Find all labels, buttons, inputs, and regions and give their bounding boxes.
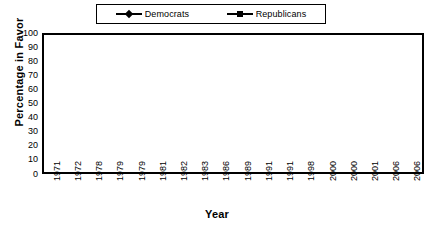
x-axis-tick: 2000	[329, 161, 338, 191]
plot-area	[42, 33, 424, 174]
x-axis-tick: 1991	[265, 161, 274, 191]
y-axis-tick: 80	[14, 57, 38, 66]
legend-entry-democrats: Democrats	[116, 10, 189, 19]
x-axis-tick: 1979	[116, 161, 125, 191]
x-axis-tick: 1978	[95, 161, 104, 191]
x-axis-tick: 1986	[222, 161, 231, 191]
legend-entry-republicans: Republicans	[227, 10, 307, 19]
y-axis-tick: 30	[14, 127, 38, 136]
y-axis-tick: 90	[14, 43, 38, 52]
x-axis-tick: 2006	[413, 161, 422, 191]
y-axis-tick: 10	[14, 155, 38, 164]
legend-label-democrats: Democrats	[145, 10, 189, 19]
x-axis-tick: 1971	[53, 161, 62, 191]
chart-legend: Democrats Republicans	[96, 4, 326, 24]
x-axis-tick: 1983	[201, 161, 210, 191]
y-axis-tick: 20	[14, 141, 38, 150]
plot-frame-border	[42, 33, 424, 174]
x-axis-tick: 1979	[138, 161, 147, 191]
x-axis-tick: 1998	[307, 161, 316, 191]
y-axis-tick: 50	[14, 99, 38, 108]
x-axis-tick: 2001	[371, 161, 380, 191]
y-axis-tick: 100	[14, 29, 38, 38]
x-axis-tick: 1989	[244, 161, 253, 191]
y-axis-tick: 60	[14, 85, 38, 94]
y-axis-tick: 0	[14, 170, 38, 179]
y-axis-tick: 70	[14, 71, 38, 80]
y-axis-tick-labels: 1009080706050403020100	[12, 33, 38, 174]
x-axis-tick-labels: 1971197219781979197919811982198319861989…	[42, 176, 424, 208]
square-marker-icon	[227, 10, 253, 18]
x-axis-tick: 1991	[286, 161, 295, 191]
legend-label-republicans: Republicans	[256, 10, 307, 19]
x-axis-title: Year	[0, 208, 434, 220]
x-axis-tick: 2000	[350, 161, 359, 191]
diamond-marker-icon	[116, 10, 142, 18]
x-axis-tick: 1972	[74, 161, 83, 191]
x-axis-tick: 1982	[180, 161, 189, 191]
y-axis-tick: 40	[14, 113, 38, 122]
x-axis-tick: 1981	[159, 161, 168, 191]
x-axis-tick: 2006	[392, 161, 401, 191]
chart-container: Democrats Republicans Percentage in Favo…	[0, 0, 434, 230]
